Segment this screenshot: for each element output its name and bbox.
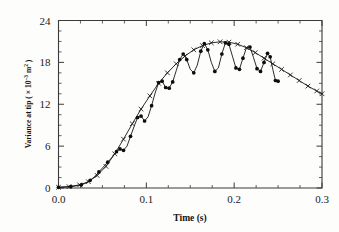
- osc-marker-54: [262, 61, 266, 65]
- osc-marker-26: [164, 86, 168, 90]
- osc-marker-24: [157, 81, 161, 85]
- osc-marker-18: [136, 116, 140, 120]
- osc-marker-2: [69, 185, 73, 189]
- chart-figure: 0.00.10.20.3 06121824 Time (s) Variance …: [0, 0, 339, 232]
- osc-marker-40: [213, 70, 217, 74]
- osc-marker-59: [276, 79, 280, 83]
- osc-marker-6: [88, 178, 92, 182]
- osc-marker-56: [268, 55, 272, 59]
- osc-marker-19: [139, 114, 143, 118]
- osc-marker-38: [206, 48, 210, 52]
- x-tick-label-1: 0.1: [139, 193, 153, 205]
- osc-marker-22: [150, 104, 154, 108]
- osc-marker-42: [220, 52, 224, 56]
- x-tick-label-2: 0.2: [227, 193, 241, 205]
- osc-marker-47: [238, 68, 242, 72]
- osc-marker-37: [202, 42, 206, 46]
- y-axis-title-close: ): [24, 59, 33, 64]
- y-axis-title-main: Variance at tip ( × 10: [24, 80, 33, 148]
- x-axis-title: Time (s): [173, 213, 206, 224]
- osc-marker-52: [255, 67, 259, 71]
- osc-marker-32: [185, 58, 189, 62]
- osc-marker-25: [160, 79, 164, 83]
- osc-marker-30: [178, 58, 182, 62]
- osc-marker-50: [248, 45, 252, 49]
- x-tick-label-0: 0.0: [52, 193, 66, 205]
- y-tick-label-3: 18: [40, 56, 52, 68]
- osc-marker-44: [227, 42, 231, 46]
- variance-vs-time-chart: 0.00.10.20.3 06121824 Time (s) Variance …: [0, 0, 339, 232]
- osc-marker-28: [171, 80, 175, 84]
- osc-marker-12: [115, 150, 119, 154]
- osc-marker-55: [266, 51, 270, 55]
- osc-marker-0: [57, 185, 61, 189]
- osc-marker-20: [143, 119, 147, 123]
- y-tick-label-2: 12: [40, 98, 51, 110]
- osc-marker-27: [167, 86, 171, 90]
- osc-marker-53: [259, 70, 263, 74]
- osc-marker-34: [192, 71, 196, 75]
- x-tick-label-3: 0.3: [315, 193, 329, 205]
- osc-marker-10: [106, 160, 110, 164]
- y-axis-title: Variance at tip ( × 10–3 m2 ): [23, 59, 33, 148]
- osc-marker-13: [118, 147, 122, 151]
- osc-marker-43: [224, 41, 228, 45]
- osc-marker-31: [181, 52, 185, 56]
- osc-marker-14: [122, 148, 126, 152]
- osc-marker-16: [129, 135, 133, 139]
- y-tick-label-0: 0: [45, 182, 51, 194]
- osc-marker-46: [234, 66, 238, 70]
- osc-marker-8: [97, 170, 101, 174]
- osc-marker-4: [79, 183, 83, 187]
- y-tick-label-4: 24: [40, 15, 52, 27]
- osc-marker-48: [241, 56, 245, 60]
- y-tick-label-1: 6: [45, 140, 51, 152]
- osc-marker-36: [199, 49, 203, 53]
